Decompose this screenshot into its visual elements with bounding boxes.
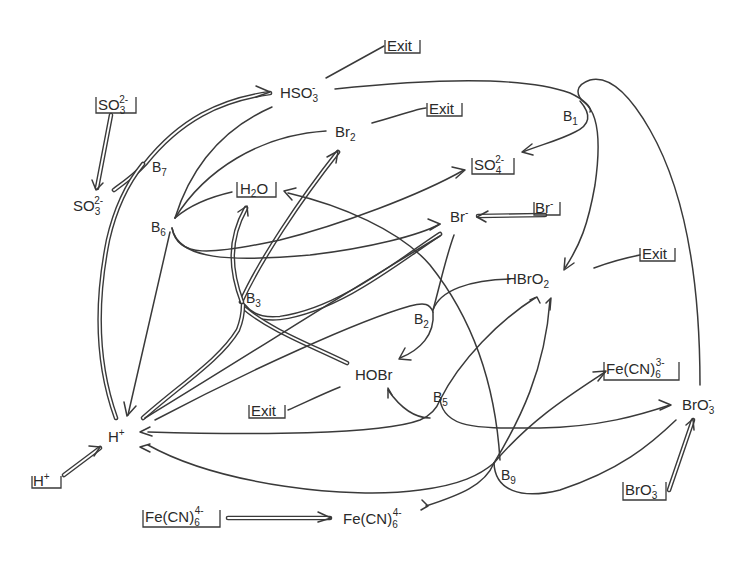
exit-box-hso3: Exit bbox=[385, 37, 420, 54]
double-line-edges bbox=[64, 86, 694, 522]
edge-hplus-b9 bbox=[148, 445, 494, 493]
species-fecn6-4: Fe(CN)64- bbox=[343, 507, 402, 530]
node-b9: B9 bbox=[501, 467, 516, 486]
species-h-plus: H+ bbox=[108, 427, 125, 445]
edge-so3in-so3 bbox=[92, 115, 111, 190]
svg-text:SO42-: SO42- bbox=[474, 154, 504, 176]
edge-b9-hbro2 bbox=[494, 300, 550, 463]
svg-text:Fe(CN)63-: Fe(CN)63- bbox=[606, 357, 665, 380]
node-b1: B1 bbox=[563, 108, 578, 127]
edge-b5-bro3 bbox=[440, 400, 670, 428]
svg-text:Exit: Exit bbox=[387, 37, 413, 54]
svg-text:SO32-: SO32- bbox=[98, 94, 128, 116]
svg-text:Exit: Exit bbox=[251, 402, 277, 419]
exit-box-hbro2: Exit bbox=[640, 245, 675, 262]
boxed-so3-input: SO32- bbox=[96, 94, 136, 116]
species-labels: HSO3- SO32- Br2 Br- HBrO2 HOBr H+ BrO3- … bbox=[73, 82, 715, 530]
edge-b6-hplus bbox=[128, 232, 170, 415]
exit-box-hobr: Exit bbox=[249, 402, 285, 419]
edge-b9-fecn3 bbox=[494, 372, 605, 463]
node-b3: B3 bbox=[246, 290, 261, 309]
edge-bro3in-bro3 bbox=[669, 419, 694, 490]
svg-text:Br-: Br- bbox=[535, 198, 553, 216]
boxed-so4-output: SO42- bbox=[472, 154, 514, 176]
svg-text:Fe(CN)64-: Fe(CN)64- bbox=[145, 505, 204, 528]
arrowhead bbox=[421, 500, 428, 510]
edge-fecnin-fecn bbox=[228, 512, 331, 522]
svg-text:H+: H+ bbox=[33, 471, 50, 489]
edge-hplus-b2 bbox=[155, 304, 433, 420]
species-so3: SO32- bbox=[73, 195, 103, 217]
species-hso3: HSO3- bbox=[280, 82, 319, 104]
edge-br2-b6 bbox=[175, 131, 326, 218]
svg-text:H2O: H2O bbox=[240, 180, 268, 199]
boxed-bro3-input: BrO3- bbox=[623, 479, 666, 501]
species-br2: Br2 bbox=[335, 123, 356, 143]
edge-hin-hplus bbox=[64, 446, 100, 475]
species-hbro2: HBrO2 bbox=[506, 270, 550, 290]
edge-hobr-exit bbox=[288, 387, 340, 410]
arrowhead bbox=[388, 388, 392, 398]
species-hobr: HOBr bbox=[355, 366, 393, 383]
reaction-network-diagram: Exit Exit Exit Exit SO32- SO42- H2O Br- … bbox=[0, 0, 746, 564]
exit-box-br2: Exit bbox=[427, 100, 462, 117]
node-b2: B2 bbox=[414, 311, 429, 330]
species-bro3: BrO3- bbox=[682, 394, 715, 416]
arrowhead bbox=[564, 258, 574, 270]
boxed-h2o: H2O bbox=[237, 180, 276, 199]
svg-text:Exit: Exit bbox=[642, 245, 668, 262]
node-b7: B7 bbox=[152, 159, 167, 178]
edge-fecn-b9 bbox=[426, 463, 494, 506]
edge-b6-brminus bbox=[172, 224, 440, 258]
single-line-edges bbox=[124, 46, 700, 510]
species-br-minus: Br- bbox=[450, 207, 468, 225]
boxed-br-input: Br- bbox=[534, 198, 560, 216]
svg-text:BrO3-: BrO3- bbox=[625, 479, 658, 501]
edge-b3-br2 bbox=[241, 151, 338, 302]
edge-hso3-b1 bbox=[335, 81, 590, 112]
arrowhead bbox=[546, 298, 551, 310]
node-b6: B6 bbox=[151, 219, 166, 238]
boxed-fecn6-3-output: Fe(CN)63- bbox=[604, 357, 679, 380]
boxed-h-input: H+ bbox=[32, 471, 61, 489]
edge-hplus-b5 bbox=[148, 400, 440, 434]
arrowhead bbox=[530, 297, 540, 303]
edge-hso3-exit bbox=[326, 46, 384, 78]
edge-b9-h2o bbox=[288, 193, 500, 460]
edge-b6-so4 bbox=[172, 170, 464, 251]
boxed-fecn6-4-input: Fe(CN)64- bbox=[143, 505, 220, 528]
edge-hbro2-exit bbox=[594, 255, 640, 268]
arrowhead bbox=[140, 444, 150, 452]
edge-br2-exit bbox=[372, 108, 426, 123]
edge-b5-hbro2 bbox=[440, 298, 535, 400]
edge-hplus-brminus-long bbox=[145, 236, 440, 418]
edge-b1-so4 bbox=[523, 101, 588, 152]
edge-b5-hobr bbox=[388, 390, 430, 418]
svg-text:Exit: Exit bbox=[429, 100, 455, 117]
